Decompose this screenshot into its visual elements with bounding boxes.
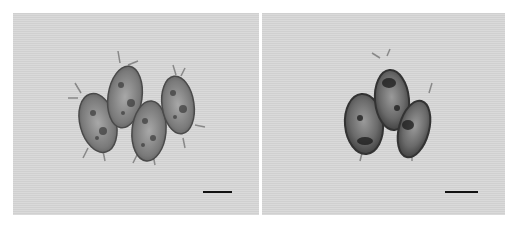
micrograph-panel-left xyxy=(13,13,259,215)
scale-bar xyxy=(203,191,232,193)
spores-right-image xyxy=(262,13,505,215)
spores-left-image xyxy=(13,13,259,215)
scale-bar xyxy=(445,191,478,193)
micrograph-panel-right xyxy=(262,13,505,215)
